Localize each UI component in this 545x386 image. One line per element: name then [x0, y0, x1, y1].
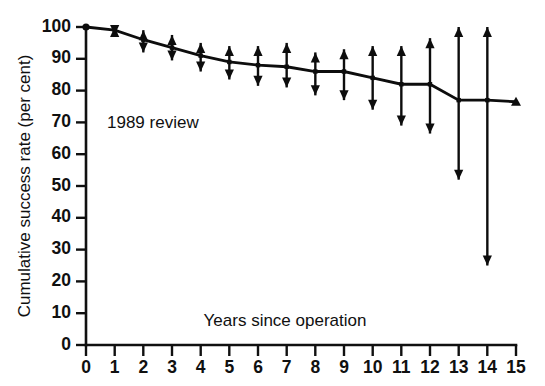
y-tick-label-100: 100: [42, 16, 71, 36]
data-point-year-1: [112, 28, 116, 32]
y-axis-label: Cumulative success rate (per cent): [15, 55, 34, 318]
y-tick-label-10: 10: [52, 302, 72, 322]
x-tick-label-7: 7: [282, 357, 292, 377]
x-tick-label-5: 5: [224, 357, 234, 377]
data-point-year-5: [227, 60, 231, 64]
x-tick-label-15: 15: [506, 357, 526, 377]
x-axis-label: Years since operation: [204, 311, 367, 330]
x-tick-label-6: 6: [253, 357, 263, 377]
y-tick-label-40: 40: [52, 206, 72, 226]
x-tick-label-8: 8: [310, 357, 320, 377]
y-tick-label-20: 20: [52, 270, 72, 290]
data-point-year-13: [456, 98, 460, 102]
y-tick-label-50: 50: [52, 175, 72, 195]
x-tick-label-1: 1: [110, 357, 120, 377]
data-point-year-3: [170, 45, 174, 49]
x-tick-label-3: 3: [167, 357, 177, 377]
data-point-year-4: [198, 53, 202, 57]
x-tick-label-14: 14: [478, 357, 498, 377]
data-point-year-8: [313, 69, 317, 73]
data-point-year-11: [399, 82, 403, 86]
x-tick-label-11: 11: [392, 357, 411, 377]
y-tick-label-80: 80: [52, 79, 72, 99]
x-tick-label-12: 12: [420, 357, 440, 377]
x-tick-label-2: 2: [138, 357, 148, 377]
x-tick-label-10: 10: [363, 357, 383, 377]
cumulative-success-rate-chart: 0 10 20 30 40 50 60 70 80 90 100: [0, 0, 545, 386]
x-tick-label-0: 0: [81, 357, 91, 377]
data-point-year-12: [428, 82, 432, 86]
y-tick-label-30: 30: [52, 238, 72, 258]
y-tick-label-70: 70: [52, 111, 72, 131]
chart-figure: 0 10 20 30 40 50 60 70 80 90 100: [0, 0, 545, 386]
y-tick-label-60: 60: [52, 143, 72, 163]
data-point-year-2: [141, 38, 145, 42]
y-tick-label-0: 0: [61, 334, 71, 354]
data-point-year-9: [342, 69, 346, 73]
x-tick-label-4: 4: [196, 357, 206, 377]
data-point-year-6: [256, 63, 260, 67]
data-point-year-10: [370, 76, 374, 80]
x-tick-label-13: 13: [449, 357, 469, 377]
series-annotation-1989-review: 1989 review: [107, 113, 199, 132]
data-point-year-14: [485, 98, 489, 102]
x-tick-label-9: 9: [339, 357, 349, 377]
data-point-year-0: [82, 23, 89, 30]
data-point-year-7: [284, 65, 288, 69]
y-tick-label-90: 90: [52, 47, 72, 67]
